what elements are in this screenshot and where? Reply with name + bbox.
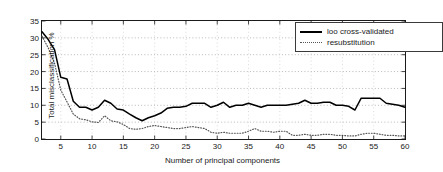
y-tick-label: 5 — [35, 118, 39, 127]
legend-item-label: loo cross-validated — [327, 27, 394, 37]
y-tick-label: 20 — [30, 67, 39, 76]
x-tick-label: 20 — [150, 142, 159, 151]
x-tick-label: 45 — [307, 142, 316, 151]
y-tick-label: 35 — [30, 17, 39, 26]
legend-solid-line-icon — [300, 27, 322, 36]
x-axis-label: Number of principal components — [41, 156, 404, 165]
x-tick-label: 35 — [244, 142, 253, 151]
chart-legend: loo cross-validated resubstitution — [295, 22, 443, 52]
y-tick-label: 10 — [30, 101, 39, 110]
y-tick-label: 30 — [30, 33, 39, 42]
x-tick-label: 55 — [369, 142, 378, 151]
x-tick-label: 30 — [213, 142, 222, 151]
legend-item-loo-cross-validated: loo cross-validated — [300, 26, 438, 37]
plot-area: 0510152025303551015202530354045505560 To… — [41, 20, 406, 140]
x-tick-label: 40 — [275, 142, 284, 151]
legend-dotted-line-icon — [300, 38, 322, 47]
x-tick-label: 15 — [119, 142, 128, 151]
x-tick-label: 60 — [401, 142, 410, 151]
x-tick-label: 5 — [59, 142, 63, 151]
x-tick-label: 50 — [338, 142, 347, 151]
x-tick-label: 10 — [88, 142, 97, 151]
y-axis-label: Total misclassification % — [47, 3, 56, 149]
y-tick-label: 25 — [30, 50, 39, 59]
y-tick-label: 15 — [30, 84, 39, 93]
y-tick-label: 0 — [35, 135, 39, 144]
legend-item-label: resubstitution — [327, 38, 375, 48]
x-tick-label: 25 — [181, 142, 190, 151]
legend-item-resubstitution: resubstitution — [300, 37, 438, 48]
